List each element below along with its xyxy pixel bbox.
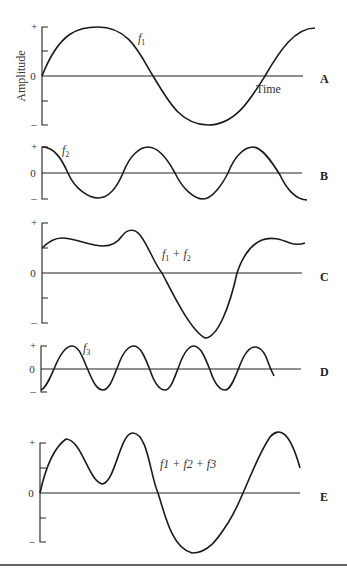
label-f1: f1	[138, 31, 145, 47]
tick-zero-c: 0	[30, 267, 36, 279]
tick-zero-e: 0	[28, 487, 34, 499]
tick-minus-a: –	[30, 118, 37, 130]
label-f1-plus-f2: f1 + f2	[162, 247, 191, 263]
panel-letter-e: E	[320, 490, 328, 504]
y-axis-label: Amplitude	[14, 50, 28, 101]
tick-minus-b: –	[30, 192, 37, 204]
panel-c-axes	[42, 223, 302, 323]
panel-letter-b: B	[320, 169, 328, 183]
tick-zero-b: 0	[30, 167, 36, 179]
tick-plus-b: +	[31, 140, 37, 152]
waveform-figure: Amplitude Time + 0 – + 0 – + 0 – + 0 – +…	[0, 0, 347, 569]
tick-plus-c: +	[31, 216, 37, 228]
panel-letter-a: A	[320, 72, 329, 86]
panel-letter-c: C	[320, 270, 329, 284]
tick-plus-a: +	[31, 20, 37, 32]
label-f2: f2	[62, 143, 69, 159]
label-f1-plus-f2-plus-f3: f1 + f2 + f3	[160, 457, 216, 471]
tick-minus-d: –	[29, 385, 36, 397]
tick-minus-c: –	[30, 316, 37, 328]
tick-plus-d: +	[30, 339, 36, 351]
curve-f3	[41, 346, 274, 390]
panel-a-axes	[42, 27, 303, 125]
tick-minus-e: –	[28, 535, 35, 547]
tick-zero-d: 0	[29, 363, 35, 375]
x-axis-label: Time	[256, 82, 281, 96]
tick-zero-a: 0	[30, 70, 36, 82]
tick-plus-e: +	[29, 436, 35, 448]
label-f3: f3	[83, 341, 90, 357]
panel-letter-d: D	[320, 365, 329, 379]
